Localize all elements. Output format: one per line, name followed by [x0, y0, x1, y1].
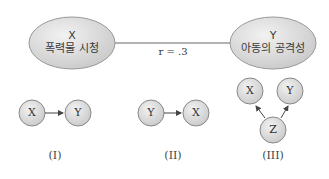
y-var: Y [230, 29, 316, 42]
caption-1: (I) [35, 149, 75, 162]
caption-3: (III) [253, 149, 293, 162]
y-label: 아동의 공격성 [230, 42, 316, 55]
x-label: 폭력물 시청 [29, 42, 115, 55]
node-label: Y [280, 84, 300, 97]
correlation-label: r = .3 [150, 46, 196, 57]
x-ellipse-label: X 폭력물 시청 [29, 29, 115, 55]
x-var: X [29, 29, 115, 42]
y-ellipse-label: Y 아동의 공격성 [230, 29, 316, 55]
node-label: Y [141, 106, 161, 119]
node-label: X [186, 106, 206, 119]
node-label: X [240, 84, 260, 97]
node-label: X [22, 106, 42, 119]
node-label: Y [68, 106, 88, 119]
arrow-z-x [256, 106, 265, 118]
arrow-z-y [281, 106, 288, 118]
node-label: Z [263, 123, 283, 136]
caption-2: (II) [153, 149, 193, 162]
